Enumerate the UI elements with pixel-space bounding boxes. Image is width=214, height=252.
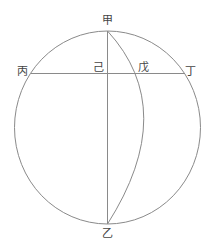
geometry-diagram: 甲 丙 己 戊 丁 乙 bbox=[0, 0, 214, 252]
label-right: 丁 bbox=[185, 66, 196, 77]
label-top: 甲 bbox=[102, 15, 113, 26]
diagram-canvas bbox=[0, 0, 214, 252]
label-bottom: 乙 bbox=[102, 228, 113, 239]
label-arc-intersection: 戊 bbox=[138, 62, 149, 73]
label-left: 丙 bbox=[17, 66, 28, 77]
inner-arc bbox=[108, 31, 144, 224]
label-center: 己 bbox=[93, 62, 104, 73]
